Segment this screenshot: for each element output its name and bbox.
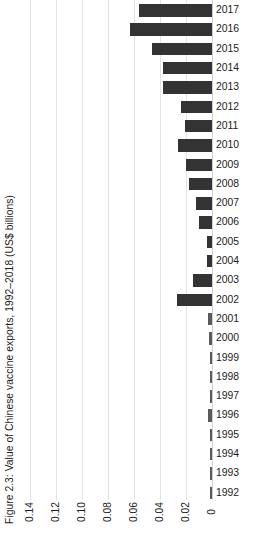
bar-row: 2006	[22, 213, 254, 232]
year-label-1992: 1992	[216, 486, 239, 500]
bar-2002	[177, 294, 212, 306]
bar-row: 1996	[22, 406, 254, 425]
year-label-1995: 1995	[216, 428, 239, 442]
bar-row: 2012	[22, 98, 254, 117]
bar-2008	[189, 178, 212, 190]
year-label-2011: 2011	[216, 119, 238, 133]
plot-area: 2017201620152014201320122011201020092008…	[22, 0, 254, 556]
year-label-2017: 2017	[216, 3, 239, 17]
year-label-2006: 2006	[216, 215, 239, 229]
x-tick-0.12: 0.12	[50, 490, 62, 534]
figure-caption: Figure 2.3: Value of Chinese vaccine exp…	[4, 24, 16, 524]
figure-container: Figure 2.3: Value of Chinese vaccine exp…	[0, 0, 254, 556]
x-tick-0.04: 0.04	[154, 490, 166, 534]
year-label-1998: 1998	[216, 370, 239, 384]
year-label-1993: 1993	[216, 466, 239, 480]
year-label-1999: 1999	[216, 351, 239, 365]
x-tick-0.10: 0.10	[76, 490, 88, 534]
bar-2010	[178, 139, 212, 151]
x-tick-0.08: 0.08	[102, 490, 114, 534]
bar-row: 2009	[22, 155, 254, 174]
bar-row: 1995	[22, 426, 254, 445]
bar-2015	[152, 43, 212, 55]
year-label-2010: 2010	[216, 138, 239, 152]
bar-2013	[163, 81, 212, 93]
year-label-2007: 2007	[216, 196, 239, 210]
year-label-2001: 2001	[216, 312, 239, 326]
bar-row: 1994	[22, 445, 254, 464]
x-tick-0.06: 0.06	[128, 490, 140, 534]
bar-1994	[210, 448, 212, 460]
x-tick-0: 0	[206, 490, 218, 534]
bar-row: 2016	[22, 20, 254, 39]
year-label-1996: 1996	[216, 408, 239, 422]
bar-row: 1998	[22, 368, 254, 387]
x-axis-tick-labels: 0.140.120.100.080.060.040.020	[22, 500, 254, 556]
bar-row: 1993	[22, 464, 254, 483]
bar-2011	[185, 120, 212, 132]
bar-row: 2002	[22, 291, 254, 310]
bar-row: 2005	[22, 233, 254, 252]
year-label-2012: 2012	[216, 100, 239, 114]
bar-row: 2017	[22, 1, 254, 20]
bar-2017	[139, 4, 212, 16]
bar-1993	[210, 467, 212, 479]
bar-row: 2001	[22, 310, 254, 329]
year-label-1997: 1997	[216, 389, 239, 403]
year-label-2003: 2003	[216, 273, 239, 287]
bar-2005	[207, 236, 212, 248]
x-tick-0.02: 0.02	[180, 490, 192, 534]
bar-row: 2007	[22, 194, 254, 213]
year-label-2005: 2005	[216, 235, 239, 249]
year-label-2002: 2002	[216, 293, 239, 307]
bar-row: 2015	[22, 40, 254, 59]
year-label-2000: 2000	[216, 331, 239, 345]
bar-1995	[210, 429, 212, 441]
bar-1999	[210, 352, 212, 364]
bar-2009	[186, 159, 212, 171]
bar-row: 2010	[22, 136, 254, 155]
year-label-2015: 2015	[216, 42, 239, 56]
bar-series: 2017201620152014201320122011201020092008…	[22, 0, 254, 500]
bar-row: 2004	[22, 252, 254, 271]
year-label-2014: 2014	[216, 61, 239, 75]
bar-1996	[208, 409, 212, 421]
bar-row: 2014	[22, 59, 254, 78]
year-label-2009: 2009	[216, 158, 239, 172]
bar-row: 2013	[22, 78, 254, 97]
figure-caption-column: Figure 2.3: Value of Chinese vaccine exp…	[0, 0, 22, 556]
year-label-2008: 2008	[216, 177, 239, 191]
bar-2000	[209, 332, 212, 344]
bar-row: 2008	[22, 175, 254, 194]
bar-row: 1997	[22, 387, 254, 406]
year-label-1994: 1994	[216, 447, 239, 461]
bar-1998	[210, 371, 212, 383]
bar-2007	[196, 197, 212, 209]
bar-row: 1999	[22, 348, 254, 367]
bar-2014	[163, 62, 212, 74]
year-label-2016: 2016	[216, 22, 239, 36]
bar-2016	[130, 23, 212, 35]
bar-row: 2011	[22, 117, 254, 136]
bar-1997	[210, 390, 212, 402]
bar-2012	[181, 101, 212, 113]
bar-row: 2003	[22, 271, 254, 290]
year-label-2013: 2013	[216, 80, 239, 94]
bar-2001	[208, 313, 212, 325]
year-label-2004: 2004	[216, 254, 239, 268]
bar-2006	[199, 216, 212, 228]
x-tick-0.14: 0.14	[24, 490, 36, 534]
bar-2004	[207, 255, 212, 267]
bar-2003	[193, 274, 213, 286]
bar-row: 2000	[22, 329, 254, 348]
